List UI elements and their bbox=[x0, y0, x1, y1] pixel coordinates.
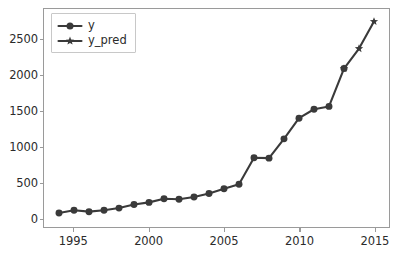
data-point-marker bbox=[221, 185, 228, 192]
y-tick-label: 2500 bbox=[9, 32, 38, 46]
legend-item-y_pred: y_pred bbox=[57, 33, 127, 48]
data-point-marker bbox=[251, 154, 258, 161]
data-point-marker bbox=[176, 196, 183, 203]
legend-item-y: y bbox=[57, 18, 127, 33]
y-tick-mark bbox=[40, 111, 44, 112]
data-point-marker bbox=[161, 195, 168, 202]
data-point-marker bbox=[236, 181, 243, 188]
y-tick-mark bbox=[40, 219, 44, 220]
x-tick-mark bbox=[149, 228, 150, 232]
y-tick-label: 0 bbox=[31, 212, 38, 226]
legend: yy_pred bbox=[51, 13, 136, 53]
series-line bbox=[59, 69, 344, 214]
x-tick-label: 2000 bbox=[134, 234, 163, 248]
y-tick-label: 1000 bbox=[9, 140, 38, 154]
x-tick-label: 2005 bbox=[210, 234, 239, 248]
data-point-marker bbox=[326, 103, 333, 110]
data-point-marker bbox=[101, 207, 108, 214]
legend-label: y_pred bbox=[88, 35, 127, 47]
y-tick-mark bbox=[40, 147, 44, 148]
x-tick-mark bbox=[375, 228, 376, 232]
y-tick-mark bbox=[40, 75, 44, 76]
data-point-marker bbox=[56, 210, 63, 217]
x-tick-label: 2010 bbox=[285, 234, 314, 248]
data-point-marker bbox=[296, 115, 303, 122]
plot-area: yy_pred bbox=[43, 8, 390, 228]
data-point-marker bbox=[116, 205, 123, 212]
data-point-marker bbox=[311, 106, 318, 113]
x-axis-tick-labels: 19952000200520102015 bbox=[0, 234, 403, 254]
data-point-marker bbox=[266, 155, 273, 162]
x-tick-mark bbox=[73, 228, 74, 232]
y-tick-mark bbox=[40, 183, 44, 184]
legend-marker-circle-icon bbox=[57, 19, 83, 33]
x-tick-mark bbox=[299, 228, 300, 232]
data-point-marker bbox=[206, 190, 213, 197]
data-point-marker bbox=[131, 201, 138, 208]
data-point-marker bbox=[146, 199, 153, 206]
series-y bbox=[56, 65, 348, 216]
y-tick-mark bbox=[40, 39, 44, 40]
data-point-marker bbox=[281, 135, 288, 142]
figure-canvas: 05001000150020002500 1995200020052010201… bbox=[0, 0, 403, 271]
legend-marker-star-icon bbox=[57, 34, 83, 48]
data-point-marker bbox=[191, 194, 198, 201]
y-axis-tick-labels: 05001000150020002500 bbox=[0, 0, 38, 271]
legend-label: y bbox=[88, 20, 95, 32]
series-y_pred bbox=[340, 17, 378, 72]
y-tick-label: 500 bbox=[16, 176, 38, 190]
x-tick-mark bbox=[224, 228, 225, 232]
data-point-marker bbox=[86, 208, 93, 215]
y-tick-label: 1500 bbox=[9, 104, 38, 118]
x-tick-label: 2015 bbox=[360, 234, 389, 248]
data-point-marker bbox=[71, 207, 78, 214]
data-point-marker bbox=[370, 17, 378, 25]
x-tick-label: 1995 bbox=[59, 234, 88, 248]
y-tick-label: 2000 bbox=[9, 68, 38, 82]
